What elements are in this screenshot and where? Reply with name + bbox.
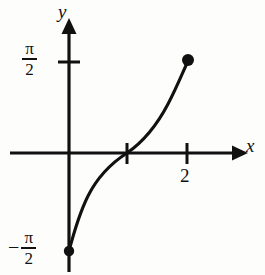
y-tick-label-pi-over-2: π 2 bbox=[22, 40, 37, 78]
end-point-dot bbox=[182, 54, 194, 66]
fraction-pi-over-2: π 2 bbox=[22, 40, 37, 78]
minus-sign: − bbox=[8, 237, 21, 259]
x-axis-label: x bbox=[246, 136, 254, 155]
fraction-denominator-two: 2 bbox=[23, 60, 36, 78]
fraction-pi-over-2: π 2 bbox=[21, 229, 36, 267]
fraction-numerator-pi: π bbox=[23, 40, 36, 58]
fraction-numerator-pi: π bbox=[22, 229, 35, 247]
graph-figure: y x 2 π 2 − π 2 bbox=[0, 0, 265, 275]
start-point-dot bbox=[64, 246, 74, 256]
y-axis-label: y bbox=[58, 2, 66, 21]
x-tick-label-2: 2 bbox=[180, 166, 190, 185]
fraction-denominator-two: 2 bbox=[23, 249, 36, 267]
graph-canvas bbox=[0, 0, 265, 275]
y-tick-label-negative-pi-over-2: − π 2 bbox=[8, 229, 36, 267]
